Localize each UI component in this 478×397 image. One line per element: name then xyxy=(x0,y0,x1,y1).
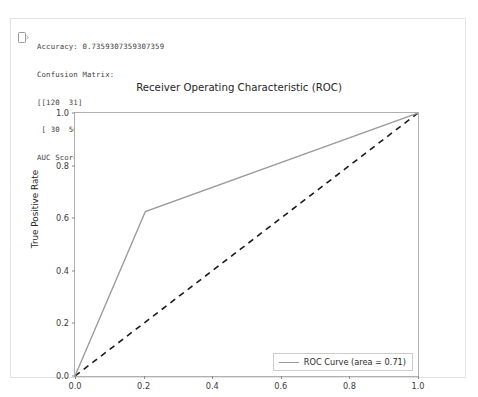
x-tick-label: 1.0 xyxy=(411,381,424,391)
stdout-line-accuracy: Accuracy: 0.7359307359307359 xyxy=(37,42,169,51)
x-tick-mark xyxy=(75,376,76,379)
plot-canvas xyxy=(75,113,418,376)
chart-legend: ROC Curve (area = 0.71) xyxy=(273,353,413,371)
x-tick-mark xyxy=(349,376,350,379)
y-tick-mark xyxy=(72,113,75,114)
x-tick-mark xyxy=(281,376,282,379)
x-tick-label: 0.4 xyxy=(206,381,219,391)
y-tick-mark xyxy=(72,218,75,219)
legend-label-roc-curve: ROC Curve (area = 0.71) xyxy=(304,357,406,367)
y-tick-label: 0.2 xyxy=(56,318,69,328)
roc-curve-line xyxy=(75,113,418,376)
plot-area: 0.00.20.40.60.81.00.00.20.40.60.81.0 ROC… xyxy=(74,112,419,377)
y-tick-label: 0.0 xyxy=(56,371,69,381)
x-tick-mark xyxy=(212,376,213,379)
y-tick-mark xyxy=(72,165,75,166)
y-tick-label: 0.8 xyxy=(56,161,69,171)
legend-swatch-roc-curve xyxy=(279,362,299,363)
y-axis-label: True Positive Rate xyxy=(30,99,40,319)
x-tick-mark xyxy=(418,376,419,379)
x-tick-mark xyxy=(144,376,145,379)
y-tick-label: 0.6 xyxy=(56,213,69,223)
x-tick-label: 0.0 xyxy=(68,381,81,391)
chance-diagonal-line xyxy=(75,113,418,376)
page-title: Receiver Operating Characteristic (ROC) xyxy=(11,82,467,93)
x-tick-label: 0.8 xyxy=(343,381,356,391)
roc-figure: Receiver Operating Characteristic (ROC) … xyxy=(11,72,467,379)
y-tick-mark xyxy=(72,323,75,324)
notebook-output-cell: Accuracy: 0.7359307359307359 Confusion M… xyxy=(10,18,466,378)
x-tick-label: 0.6 xyxy=(274,381,287,391)
y-tick-mark xyxy=(72,270,75,271)
y-tick-label: 1.0 xyxy=(56,108,69,118)
y-tick-label: 0.4 xyxy=(56,266,69,276)
x-tick-label: 0.2 xyxy=(137,381,150,391)
output-prompt-icon xyxy=(18,28,29,39)
